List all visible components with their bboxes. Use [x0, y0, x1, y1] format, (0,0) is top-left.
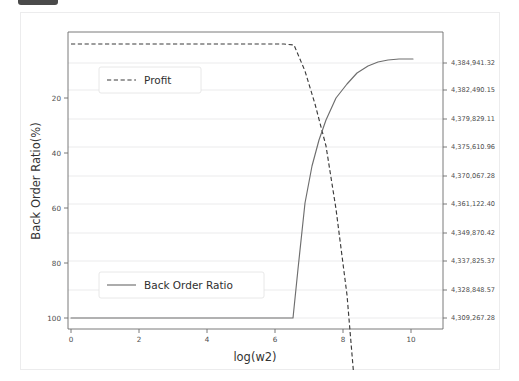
y-tick-label-right: 4,309,267.28: [451, 314, 495, 322]
y-axis-title: Back Order Ratio(%): [29, 122, 43, 239]
x-tick-label: 8: [341, 335, 346, 344]
y-tick-label-right: 4,337,825.37: [451, 257, 495, 265]
legend-back-order-ratio-label: Back Order Ratio: [144, 279, 233, 291]
x-tick-label: 4: [205, 335, 210, 344]
y-tick-label-right: 4,349,870.42: [451, 229, 495, 237]
x-tick-label: 2: [137, 335, 142, 344]
x-tick-label: 10: [406, 335, 416, 344]
y-tick-label-right: 4,384,941.32: [451, 59, 495, 67]
y-tick-label-left: 60: [52, 204, 62, 213]
x-axis-title: log(w2): [233, 350, 276, 364]
y-tick-label-right: 4,382,490.15: [451, 86, 495, 94]
legend-profit-label: Profit: [144, 74, 171, 86]
y-tick-label-left: 40: [52, 149, 62, 158]
legend-profit[interactable]: Profit: [99, 67, 201, 93]
legend-back-order-ratio[interactable]: Back Order Ratio: [99, 272, 264, 298]
y-tick-label-right: 4,370,067.28: [451, 172, 495, 180]
chart-svg: 0 2 4 6 8 10 log(w2) 20 40 60 80 100: [21, 13, 501, 371]
x-tick-label: 6: [273, 335, 278, 344]
y-tick-label-left: 20: [52, 94, 62, 103]
y-tick-label-right: 4,375,610.96: [451, 143, 495, 151]
y-axis-right: 4,384,941.32 4,382,490.15 4,379,829.11 4…: [443, 59, 495, 322]
y-tick-label-right: 4,328,848.57: [451, 286, 495, 294]
y-tick-label-right: 4,361,122.40: [451, 200, 495, 208]
y-tick-label-left: 80: [52, 259, 62, 268]
y-axis-left: 20 40 60 80 100: [47, 94, 68, 323]
y-tick-label-right: 4,379,829.11: [451, 115, 495, 123]
x-axis: 0 2 4 6 8 10: [69, 329, 416, 344]
chart-figure: 0 2 4 6 8 10 log(w2) 20 40 60 80 100: [21, 13, 501, 371]
chart-card: 0 2 4 6 8 10 log(w2) 20 40 60 80 100: [20, 12, 500, 370]
y-tick-label-left: 100: [47, 314, 61, 323]
x-tick-label: 0: [69, 335, 74, 344]
top-tab-fragment: [18, 0, 58, 5]
